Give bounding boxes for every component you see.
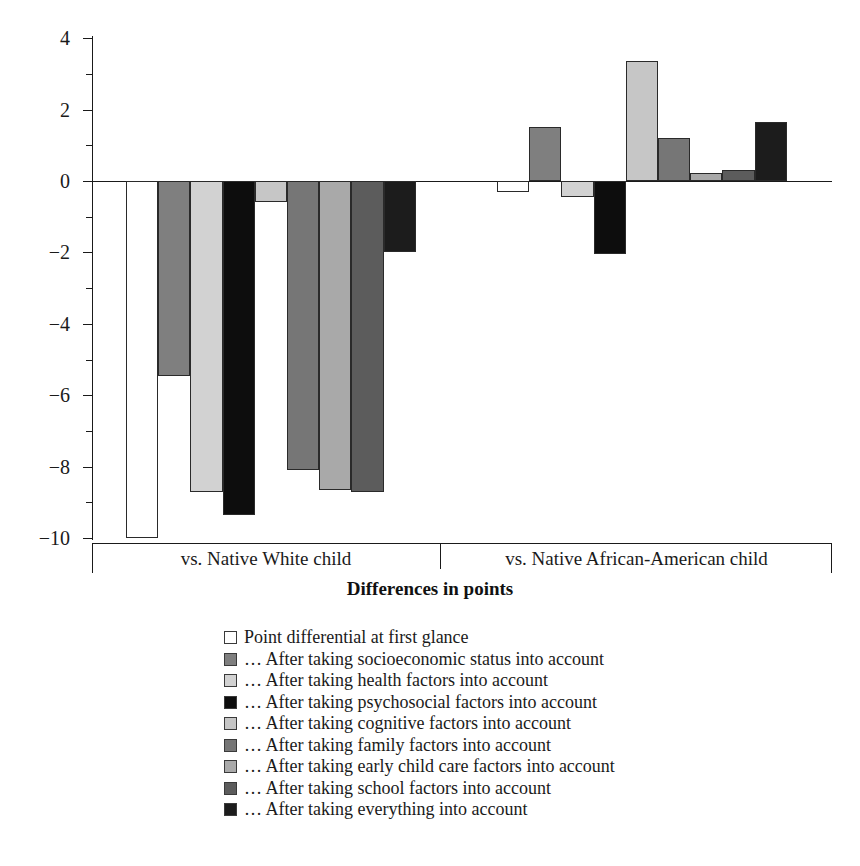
legend-item: Point differential at first glance — [224, 627, 694, 649]
legend-item: … After taking early child care factors … — [224, 756, 694, 778]
legend-swatch-icon — [224, 653, 237, 666]
bar — [384, 181, 416, 252]
bar — [497, 181, 529, 192]
bar — [722, 170, 754, 181]
bar — [158, 181, 190, 376]
chart-figure: 420−2−4−6−8−10 vs. Native White child vs… — [0, 0, 860, 866]
legend-swatch-icon — [224, 674, 237, 687]
legend-label: Point differential at first glance — [244, 628, 469, 647]
bar — [287, 181, 319, 470]
legend: Point differential at first glance… Afte… — [224, 627, 694, 821]
bar — [690, 173, 722, 181]
legend-swatch-icon — [224, 696, 237, 709]
legend-swatch-icon — [224, 631, 237, 644]
legend-item: … After taking family factors into accou… — [224, 735, 694, 757]
bar — [255, 181, 287, 202]
legend-label: … After taking school factors into accou… — [244, 779, 551, 798]
bar — [319, 181, 351, 490]
bar — [594, 181, 626, 254]
legend-label: … After taking family factors into accou… — [244, 736, 551, 755]
bar — [126, 181, 158, 538]
bar — [190, 181, 222, 492]
legend-label: … After taking cognitive factors into ac… — [244, 714, 571, 733]
legend-swatch-icon — [224, 739, 237, 752]
x-axis-title: Differences in points — [0, 578, 860, 600]
bars-layer — [0, 0, 860, 580]
legend-item: … After taking health factors into accou… — [224, 670, 694, 692]
bar — [755, 122, 787, 181]
legend-swatch-icon — [224, 803, 237, 816]
legend-swatch-icon — [224, 717, 237, 730]
group-label-native-white: vs. Native White child — [92, 548, 440, 570]
legend-item: … After taking socioeconomic status into… — [224, 649, 694, 671]
legend-item: … After taking cognitive factors into ac… — [224, 713, 694, 735]
group-label-native-african-american: vs. Native African-American child — [441, 548, 832, 570]
legend-swatch-icon — [224, 782, 237, 795]
bar — [529, 127, 561, 181]
legend-item: … After taking psychosocial factors into… — [224, 692, 694, 714]
plot-area: 420−2−4−6−8−10 — [0, 0, 860, 580]
legend-item: … After taking school factors into accou… — [224, 778, 694, 800]
bar — [351, 181, 383, 492]
bar — [223, 181, 255, 515]
legend-swatch-icon — [224, 760, 237, 773]
bar — [561, 181, 593, 197]
legend-label: … After taking health factors into accou… — [244, 671, 548, 690]
legend-label: … After taking early child care factors … — [244, 757, 615, 776]
bar — [626, 61, 658, 181]
bar — [658, 138, 690, 181]
legend-item: … After taking everything into account — [224, 799, 694, 821]
legend-label: … After taking psychosocial factors into… — [244, 693, 597, 712]
legend-label: … After taking socioeconomic status into… — [244, 650, 604, 669]
legend-label: … After taking everything into account — [244, 800, 527, 819]
